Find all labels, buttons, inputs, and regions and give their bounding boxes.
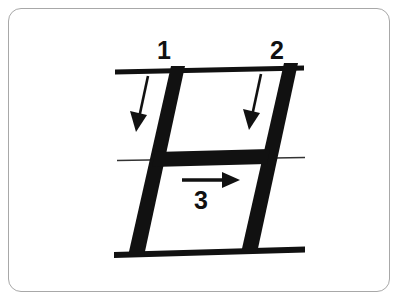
- character-glyph: [128, 63, 298, 256]
- stroke-order-diagram: [0, 0, 412, 304]
- character-drawing-svg: [0, 0, 412, 304]
- glyph-crossbar: [152, 149, 270, 167]
- stroke-number-2-label: 2: [261, 38, 293, 63]
- top-guideline: [115, 66, 304, 75]
- arrow-stroke-2: [243, 74, 261, 130]
- arrow-stroke-3: [182, 172, 240, 188]
- arrow-stroke-1: [130, 76, 148, 132]
- stroke-number-3-label: 3: [185, 188, 217, 213]
- stroke-number-1-label: 1: [148, 38, 180, 63]
